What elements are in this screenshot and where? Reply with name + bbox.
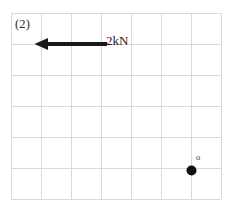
pivot-point-marker: [182, 161, 201, 180]
panel-label: (2): [15, 18, 30, 31]
force-arrow-icon: [33, 35, 109, 54]
pivot-point-label: o: [196, 153, 200, 162]
force-diagram-figure: (2) 2kN o: [0, 0, 234, 216]
force-magnitude-label: 2kN: [106, 34, 128, 47]
